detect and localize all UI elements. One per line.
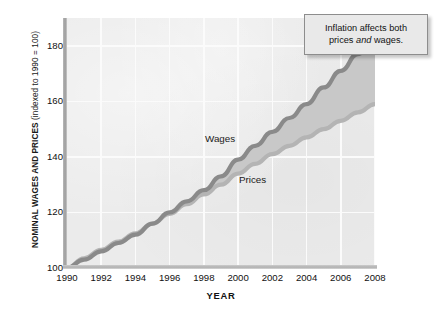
callout-line-2: prices and wages. <box>311 34 421 46</box>
callout-line-2-pre: prices <box>329 35 356 45</box>
callout-line-2-emphasis: and <box>356 35 371 45</box>
y-axis-ticks: 100120140160180 <box>33 0 63 315</box>
wages-line <box>67 37 375 268</box>
x-axis-title: YEAR <box>67 290 375 301</box>
y-tick-label: 120 <box>37 207 63 217</box>
callout-line-1: Inflation affects both <box>311 22 421 34</box>
x-axis-ticks: 1990199219941996199820002002200420062008 <box>0 272 444 286</box>
y-tick-label: 140 <box>37 152 63 162</box>
callout-line-2-post: wages. <box>371 35 403 45</box>
series-label-wages: Wages <box>205 133 235 144</box>
y-axis-spine <box>63 18 67 269</box>
callout-annotation: Inflation affects both prices and wages. <box>304 14 428 55</box>
series-label-prices: Prices <box>239 174 266 185</box>
chart-figure: NOMINAL WAGES AND PRICES (indexed to 199… <box>0 0 444 315</box>
wages-prices-band <box>67 37 375 268</box>
y-tick-label: 160 <box>37 96 63 106</box>
x-axis-spine <box>63 265 377 269</box>
y-tick-label: 180 <box>37 41 63 51</box>
x-tick-label: 2008 <box>355 272 395 283</box>
